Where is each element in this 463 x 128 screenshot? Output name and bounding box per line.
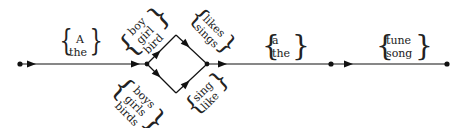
svg-text:}: } bbox=[415, 29, 433, 62]
arrow-icon bbox=[27, 61, 36, 68]
grammar-diagram: { A the } { boy girl bird } { boys girls… bbox=[0, 0, 463, 128]
start-node bbox=[17, 61, 22, 66]
edge-fork-lower bbox=[147, 64, 176, 93]
svg-text:A: A bbox=[75, 33, 85, 46]
label-noun-object: { tune song } bbox=[376, 29, 433, 62]
svg-text:a: a bbox=[272, 34, 279, 47]
label-determiner-1: { A the } bbox=[60, 22, 103, 59]
label-noun-singular: { boy girl bird } bbox=[111, 0, 181, 68]
end-node bbox=[444, 61, 449, 66]
svg-text:}: } bbox=[292, 29, 310, 62]
svg-text:the: the bbox=[69, 46, 87, 59]
label-determiner-2: { a the } bbox=[262, 29, 310, 62]
svg-text:the: the bbox=[272, 47, 290, 60]
label-verb-plural: { sing like } bbox=[179, 65, 236, 122]
join-node bbox=[205, 62, 210, 67]
svg-text:song: song bbox=[386, 47, 412, 60]
middle-node bbox=[328, 61, 333, 66]
fork-node bbox=[145, 62, 150, 67]
label-noun-plural: { boys girls birds } bbox=[101, 70, 174, 128]
label-verb-singular: { likes sings } bbox=[183, 1, 243, 61]
arrow-icon bbox=[218, 61, 227, 68]
svg-text:}: } bbox=[90, 22, 103, 57]
svg-text:tune: tune bbox=[386, 34, 411, 47]
arrow-icon bbox=[344, 61, 353, 68]
